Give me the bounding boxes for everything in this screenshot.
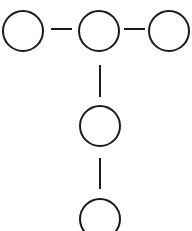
tree-diagram [0,0,192,231]
node-n3 [149,11,189,51]
node-n4 [80,106,120,146]
node-n2 [79,11,119,51]
node-n5 [80,199,120,231]
node-n1 [3,11,43,51]
